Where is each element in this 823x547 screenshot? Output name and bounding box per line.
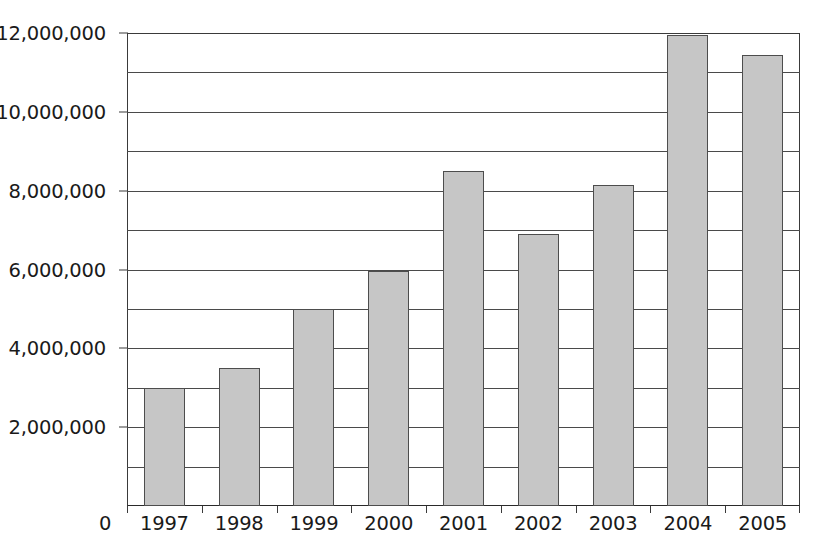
y-tick-label-4000000: 4,000,000 [9, 337, 106, 360]
plot-area [127, 33, 800, 506]
bar-2003[interactable] [593, 185, 634, 506]
bar-2005[interactable] [742, 55, 783, 506]
bar-2002[interactable] [518, 234, 559, 506]
bar-2000[interactable] [368, 271, 409, 506]
bar-1999[interactable] [293, 309, 334, 506]
bar-slot-2005 [725, 33, 800, 506]
x-tick-label-1999: 1999 [277, 512, 352, 544]
y-axis: 12,000,000 10,000,000 8,000,000 6,000,00… [0, 0, 120, 547]
bar-slot-2001 [426, 33, 501, 506]
x-tick-label-1998: 1998 [202, 512, 277, 544]
bar-slot-2002 [501, 33, 576, 506]
bar-slot-2004 [650, 33, 725, 506]
bar-slot-2000 [351, 33, 426, 506]
bar-slot-1998 [202, 33, 277, 506]
bar-slot-2003 [576, 33, 651, 506]
x-tick-label-1997: 1997 [127, 512, 202, 544]
y-tick-label-10000000: 10,000,000 [0, 100, 106, 123]
bar-slot-1997 [127, 33, 202, 506]
bar-chart: 12,000,000 10,000,000 8,000,000 6,000,00… [0, 0, 823, 547]
x-tick-label-2004: 2004 [650, 512, 725, 544]
y-tick-label-6000000: 6,000,000 [9, 258, 106, 281]
x-tick-label-2000: 2000 [351, 512, 426, 544]
y-axis-origin-label: 0 [99, 512, 111, 535]
bar-1998[interactable] [219, 368, 260, 506]
bar-1997[interactable] [144, 388, 185, 506]
bar-slot-1999 [277, 33, 352, 506]
y-tick-label-8000000: 8,000,000 [9, 179, 106, 202]
x-axis: 1997 1998 1999 2000 2001 2002 2003 2004 … [127, 512, 800, 544]
x-tick-label-2005: 2005 [725, 512, 800, 544]
x-tick-label-2003: 2003 [576, 512, 651, 544]
bars [127, 33, 800, 506]
x-tick-label-2001: 2001 [426, 512, 501, 544]
scan-edge [0, 541, 823, 547]
y-tick-label-2000000: 2,000,000 [9, 416, 106, 439]
bar-2001[interactable] [443, 171, 484, 506]
bar-2004[interactable] [667, 35, 708, 506]
x-tick-label-2002: 2002 [501, 512, 576, 544]
y-tick-label-12000000: 12,000,000 [0, 22, 106, 45]
